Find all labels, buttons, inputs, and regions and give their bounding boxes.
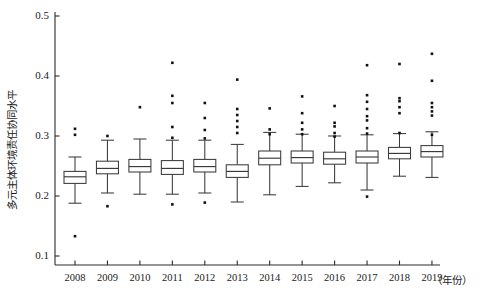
outlier-point: [366, 132, 369, 135]
box-iqr: [129, 159, 151, 172]
y-axis-title: 多元主体环境责任协同水平: [6, 90, 18, 210]
outlier-point: [431, 102, 434, 105]
outlier-point: [301, 128, 304, 131]
outlier-point: [398, 97, 401, 100]
box-iqr: [96, 161, 118, 174]
outlier-point: [398, 132, 401, 135]
x-axis-title: （年份）: [432, 274, 472, 286]
outlier-point: [366, 101, 369, 104]
outlier-point: [366, 127, 369, 130]
outlier-point: [236, 132, 239, 135]
outlier-point: [204, 129, 207, 132]
outlier-point: [398, 100, 401, 103]
outlier-point: [171, 137, 174, 140]
outlier-point: [366, 64, 369, 67]
outlier-point: [106, 135, 109, 138]
x-tick-label: 2009: [97, 272, 118, 283]
box-iqr: [291, 151, 313, 163]
outlier-point: [431, 106, 434, 109]
outlier-point: [236, 114, 239, 117]
outlier-point: [236, 126, 239, 129]
outlier-point: [431, 134, 434, 137]
outlier-point: [333, 105, 336, 108]
outlier-point: [236, 108, 239, 111]
outlier-point: [301, 122, 304, 125]
x-tick-label: 2016: [324, 272, 345, 283]
y-tick-label: 0.1: [35, 249, 49, 261]
y-tick-label: 0.3: [35, 129, 49, 141]
chart-canvas: 0.10.20.30.40.5 200820092010201120122013…: [0, 0, 488, 300]
outlier-point: [366, 115, 369, 118]
y-tick-label: 0.4: [35, 69, 49, 81]
outlier-point: [366, 94, 369, 97]
outlier-point: [204, 102, 207, 105]
outlier-point: [236, 120, 239, 123]
x-tick-label: 2017: [357, 272, 378, 283]
outlier-point: [431, 80, 434, 83]
outlier-point: [268, 107, 271, 110]
box-iqr: [161, 161, 183, 175]
outlier-point: [204, 201, 207, 204]
outlier-point: [204, 117, 207, 120]
outlier-point: [171, 102, 174, 105]
outlier-point: [398, 112, 401, 115]
outlier-point: [171, 203, 174, 206]
x-tick-label: 2010: [129, 272, 150, 283]
outlier-point: [333, 132, 336, 135]
outlier-point: [333, 122, 336, 125]
y-tick-label: 0.5: [35, 9, 49, 21]
outlier-point: [398, 63, 401, 66]
outlier-point: [431, 110, 434, 113]
x-tick-label: 2013: [227, 272, 248, 283]
chart-background: [0, 0, 488, 300]
outlier-point: [204, 137, 207, 140]
x-tick-label: 2015: [292, 272, 313, 283]
y-tick-label: 0.2: [35, 189, 49, 201]
outlier-point: [366, 108, 369, 111]
outlier-point: [236, 78, 239, 81]
outlier-point: [74, 134, 77, 137]
outlier-point: [366, 119, 369, 122]
outlier-point: [301, 133, 304, 136]
outlier-point: [366, 195, 369, 198]
boxplot-chart: 0.10.20.30.40.5 200820092010201120122013…: [0, 0, 488, 300]
outlier-point: [171, 62, 174, 65]
x-tick-label: 2011: [162, 272, 183, 283]
x-tick-label: 2008: [65, 272, 86, 283]
outlier-point: [301, 112, 304, 115]
outlier-point: [301, 95, 304, 98]
outlier-point: [139, 106, 142, 109]
outlier-point: [74, 128, 77, 131]
outlier-point: [431, 114, 434, 117]
outlier-point: [333, 125, 336, 128]
outlier-point: [268, 133, 271, 136]
outlier-point: [333, 135, 336, 138]
x-tick-label: 2018: [389, 272, 410, 283]
box-iqr: [64, 171, 86, 183]
outlier-point: [106, 205, 109, 208]
outlier-point: [268, 128, 271, 131]
box-iqr: [324, 152, 346, 164]
x-tick-label: 2012: [194, 272, 215, 283]
x-tick-label: 2014: [259, 272, 281, 283]
outlier-point: [398, 106, 401, 109]
outlier-point: [431, 53, 434, 56]
box-iqr: [194, 159, 216, 172]
outlier-point: [74, 235, 77, 238]
outlier-point: [171, 95, 174, 98]
outlier-point: [171, 126, 174, 129]
